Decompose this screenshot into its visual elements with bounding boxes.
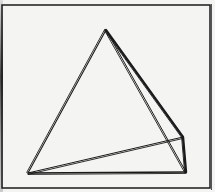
edge-bottom-left-to-right-back-inner xyxy=(28,138,183,174)
edge-apex-to-bottom-left xyxy=(28,30,106,173)
edge-bottom-left-to-right-back xyxy=(28,137,183,173)
edge-bottom-left-to-bottom-right-inner xyxy=(28,173,186,174)
edge-apex-to-right-back-inner xyxy=(105,31,182,138)
edge-apex-to-bottom-right xyxy=(106,30,186,172)
edge-apex-to-bottom-left-inner xyxy=(27,29,105,172)
tetrahedron-figure xyxy=(0,0,215,192)
figure-frame-outer xyxy=(211,4,212,190)
edge-bottom-left-to-bottom-right xyxy=(28,172,186,173)
edge-apex-to-right-back xyxy=(106,30,183,137)
edge-apex-to-bottom-right-inner xyxy=(105,31,185,173)
